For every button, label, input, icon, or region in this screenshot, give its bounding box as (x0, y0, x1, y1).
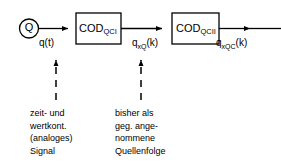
signal-label-qt: q(t) (39, 38, 54, 48)
block-diagram-canvas: Q CODQCI CODQCII q(t) qxQ(k) qxQC(k) zei… (0, 0, 281, 163)
signal-qxq-suffix: (k) (147, 37, 159, 48)
cod-qcii-base: COD (176, 22, 200, 34)
signal-label-qxqc: qxQC(k) (216, 38, 247, 48)
cod-qci-subscript: QCI (103, 27, 116, 36)
cod-qcii-subscript: QCII (200, 27, 215, 36)
signal-qxq-subscript: xQ (138, 43, 147, 50)
signal-qxq-base: q (132, 37, 138, 48)
annotation-right-line-1: bisher als (115, 107, 166, 120)
annotation-left-line-1: zeit- und (30, 107, 73, 120)
annotation-right-line-2: geg. ange- (115, 120, 166, 133)
annotation-right-line-3: nommene (115, 132, 166, 145)
cod-qcii-label: CODQCII (176, 23, 216, 34)
signal-qt-suffix: (t) (45, 37, 54, 48)
annotation-left-line-4: Signal (30, 145, 73, 158)
annotation-right-line-4: Quellenfolge (115, 145, 166, 158)
signal-label-qxq: qxQ(k) (132, 38, 158, 48)
signal-qxqc-base: q (216, 37, 222, 48)
source-label: Q (22, 22, 36, 33)
cod-qci-label: CODQCI (79, 23, 117, 34)
signal-qxqc-suffix: (k) (236, 37, 248, 48)
signal-qxqc-subscript: xQC (222, 43, 236, 50)
annotation-left-line-2: wertkont. (30, 120, 73, 133)
annotation-text-left: zeit- und wertkont. (analoges) Signal (30, 107, 73, 157)
cod-qci-base: COD (79, 22, 103, 34)
annotation-text-right: bisher als geg. ange- nommene Quellenfol… (115, 107, 166, 157)
annotation-left-line-3: (analoges) (30, 132, 73, 145)
